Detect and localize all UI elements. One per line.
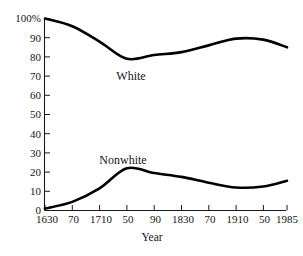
population-composition-line-chart: 100% 90 80 70 60 50 40 30 20 10 0 [0, 0, 303, 256]
x-tick-label: 1710 [90, 213, 113, 225]
x-axis-tick-labels: 1630 70 1710 50 90 1830 70 1910 50 1985 [36, 213, 299, 225]
series-annotation-white: White [116, 69, 145, 83]
y-tick-label: 10 [30, 185, 42, 197]
x-tick-label: 1830 [172, 213, 195, 225]
x-tick-label: 1910 [227, 213, 250, 225]
x-tick-label: 1630 [36, 213, 59, 225]
y-tick-label: 20 [30, 166, 42, 178]
series-annotation-nonwhite: Nonwhite [99, 153, 146, 167]
x-tick-label: 50 [123, 213, 135, 225]
x-tick-label: 70 [205, 213, 217, 225]
x-tick-label: 1985 [276, 213, 299, 225]
y-axis-tick-marks [45, 19, 51, 211]
y-tick-label: 90 [30, 32, 42, 44]
y-axis-tick-labels: 100% 90 80 70 60 50 40 30 20 10 0 [15, 12, 41, 216]
series-line-nonwhite [45, 168, 287, 209]
y-tick-label: 100% [15, 12, 41, 24]
y-tick-label: 60 [30, 89, 42, 101]
y-tick-label: 70 [30, 70, 42, 82]
chart-figure: 100% 90 80 70 60 50 40 30 20 10 0 [0, 0, 303, 256]
y-tick-label: 30 [30, 147, 42, 159]
x-tick-label: 70 [68, 213, 80, 225]
y-tick-label: 40 [30, 128, 42, 140]
x-axis-tick-marks [45, 205, 287, 211]
y-tick-label: 80 [30, 51, 42, 63]
series-line-white [45, 19, 287, 60]
x-tick-label: 90 [150, 213, 162, 225]
x-axis-title: Year [141, 231, 162, 243]
y-tick-label: 50 [30, 108, 42, 120]
x-tick-label: 50 [259, 213, 271, 225]
